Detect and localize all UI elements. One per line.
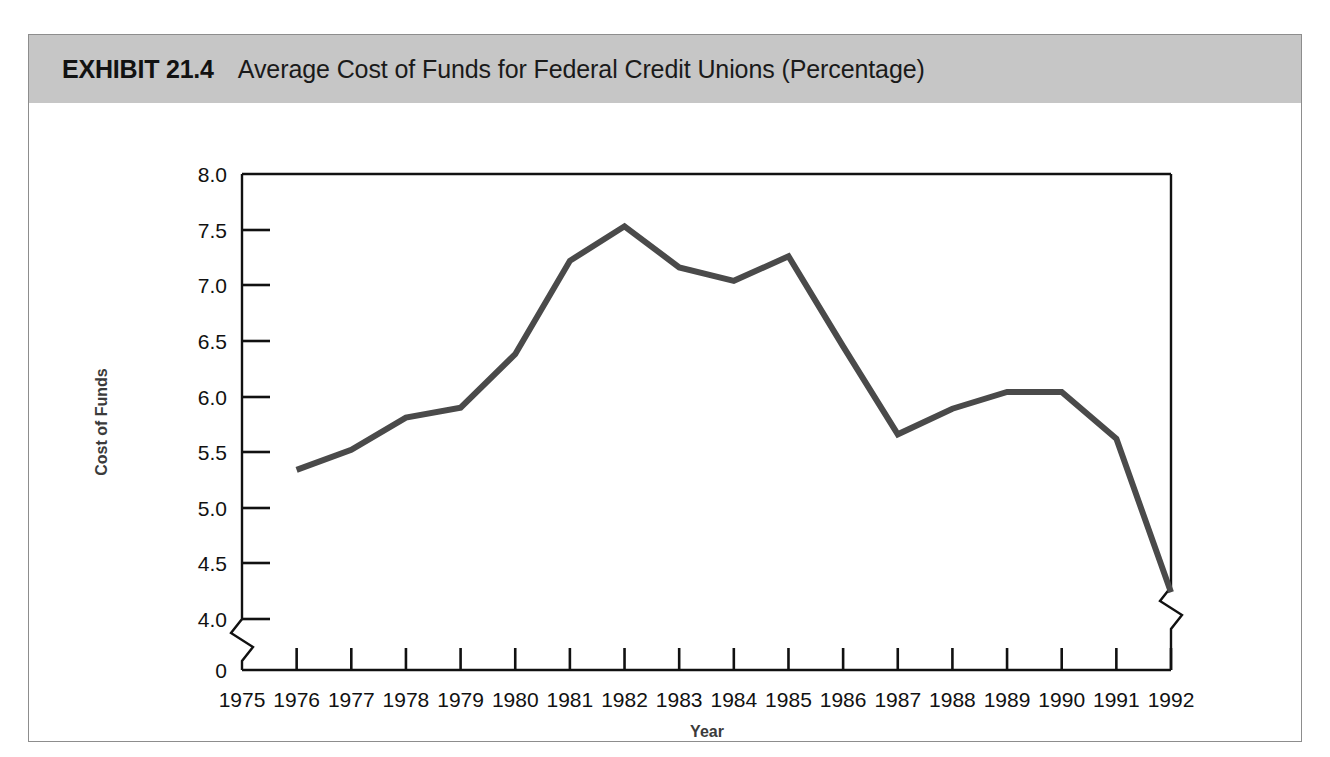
y-axis-tick-labels: 8.0 7.5 7.0 6.5 6.0 5.5 5.0 4.5 4.0 0: [198, 163, 227, 682]
y-axis-label: Cost of Funds: [93, 368, 110, 476]
x-tick-label-1984: 1984: [710, 688, 757, 711]
y-tick-label-7: 4.5: [198, 552, 227, 575]
x-tick-label-1979: 1979: [437, 688, 484, 711]
x-axis-tick-labels: 1975197619771978197919801981198219831984…: [219, 688, 1195, 711]
x-tick-label-1975: 1975: [219, 688, 266, 711]
y-tick-label-0: 8.0: [198, 163, 227, 186]
plot-frame-left: [231, 174, 253, 670]
x-tick-label-1977: 1977: [328, 688, 375, 711]
y-tick-label-1: 7.5: [198, 219, 227, 242]
y-tick-label-5: 5.5: [198, 441, 227, 464]
x-axis-label: Year: [690, 723, 724, 740]
y-tick-label-9: 0: [215, 659, 227, 682]
x-tick-label-1992: 1992: [1148, 688, 1195, 711]
x-tick-label-1978: 1978: [383, 688, 430, 711]
x-tick-label-1989: 1989: [984, 688, 1031, 711]
exhibit-number: EXHIBIT 21.4: [62, 55, 214, 84]
x-tick-label-1988: 1988: [929, 688, 976, 711]
y-tick-label-4: 6.0: [198, 386, 227, 409]
x-tick-label-1991: 1991: [1093, 688, 1140, 711]
x-tick-label-1985: 1985: [765, 688, 812, 711]
x-tick-label-1981: 1981: [547, 688, 594, 711]
y-axis-ticks: [242, 230, 270, 619]
cost-of-funds-line: [297, 226, 1171, 592]
chart-axes: [231, 174, 1182, 670]
exhibit-frame: EXHIBIT 21.4 Average Cost of Funds for F…: [28, 34, 1302, 742]
x-tick-label-1976: 1976: [273, 688, 320, 711]
x-tick-label-1982: 1982: [601, 688, 648, 711]
x-tick-label-1987: 1987: [874, 688, 921, 711]
exhibit-title: Average Cost of Funds for Federal Credit…: [238, 55, 925, 84]
x-tick-label-1980: 1980: [492, 688, 539, 711]
x-tick-label-1986: 1986: [820, 688, 867, 711]
y-tick-label-8: 4.0: [198, 608, 227, 631]
chart-plot-area: 8.0 7.5 7.0 6.5 6.0 5.5 5.0 4.5 4.0 0 19…: [29, 103, 1301, 743]
x-tick-label-1990: 1990: [1038, 688, 1085, 711]
y-tick-label-6: 5.0: [198, 497, 227, 520]
plot-frame-right: [1160, 174, 1182, 670]
y-tick-label-2: 7.0: [198, 274, 227, 297]
x-tick-label-1983: 1983: [656, 688, 703, 711]
exhibit-title-group: EXHIBIT 21.4 Average Cost of Funds for F…: [62, 35, 925, 103]
y-tick-label-3: 6.5: [198, 330, 227, 353]
x-axis-ticks: [297, 648, 1171, 670]
line-chart: 8.0 7.5 7.0 6.5 6.0 5.5 5.0 4.5 4.0 0 19…: [29, 103, 1303, 743]
exhibit-title-band: EXHIBIT 21.4 Average Cost of Funds for F…: [29, 35, 1301, 103]
